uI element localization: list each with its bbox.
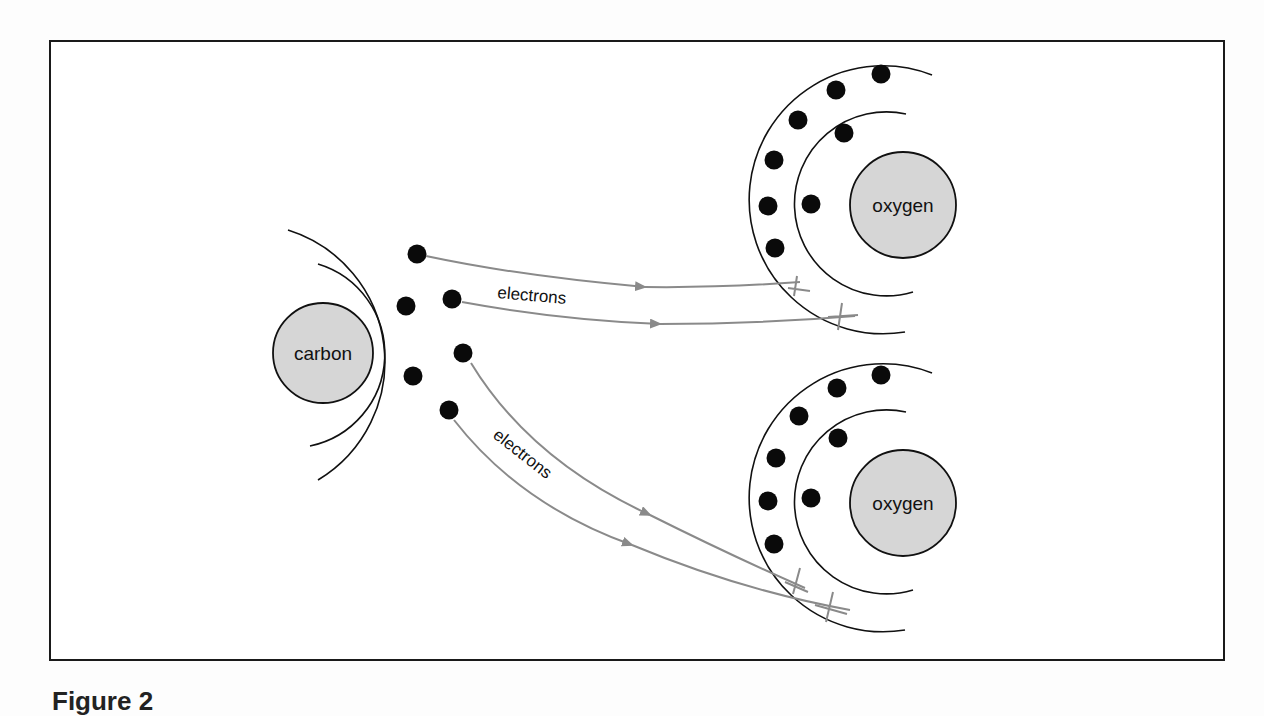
electron	[789, 111, 808, 130]
electron-transfer-arrows-top	[426, 256, 858, 330]
electron	[790, 407, 809, 426]
electron	[765, 535, 784, 554]
arrow-path	[454, 420, 632, 545]
electron	[827, 81, 846, 100]
electron	[759, 197, 778, 216]
electron	[802, 489, 821, 508]
figure-caption: Figure 2	[52, 688, 153, 714]
electron	[765, 151, 784, 170]
electron	[440, 401, 459, 420]
cross-mark	[788, 276, 810, 296]
electron	[828, 379, 847, 398]
electron	[872, 366, 891, 385]
oxygen-atom-top: oxygen	[749, 65, 956, 334]
electron	[767, 449, 786, 468]
oxygen-bottom-label: oxygen	[872, 493, 933, 514]
electron	[759, 492, 778, 511]
electron	[397, 297, 416, 316]
electron	[872, 65, 891, 84]
electrons-label-bottom: electrons	[490, 425, 556, 482]
electron	[829, 429, 848, 448]
electron	[404, 367, 423, 386]
electron	[408, 245, 427, 264]
arrow-path	[426, 256, 645, 287]
oxygen-atom-bottom: oxygen	[749, 364, 956, 632]
electron	[766, 239, 785, 258]
carbon-label: carbon	[294, 343, 352, 364]
carbon-atom: carbon	[273, 230, 473, 480]
electron	[454, 344, 473, 363]
electron	[443, 290, 462, 309]
electrons-label-top: electrons	[497, 283, 567, 308]
oxygen-top-label: oxygen	[872, 195, 933, 216]
electron	[802, 195, 821, 214]
electron	[835, 124, 854, 143]
